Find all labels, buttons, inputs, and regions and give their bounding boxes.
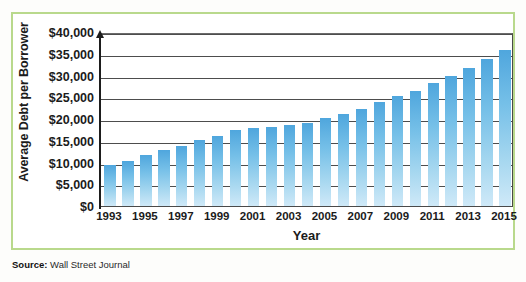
x-tick-label: 2011 (420, 210, 445, 222)
y-tick-label: $10,000 (32, 157, 94, 171)
bar (194, 140, 205, 206)
bar-series (101, 34, 512, 206)
bar (392, 96, 403, 206)
bar (176, 146, 187, 206)
y-tick-label: $25,000 (32, 91, 94, 105)
x-axis-title: Year (100, 228, 513, 243)
y-tick-label: $15,000 (32, 135, 94, 149)
bar (374, 102, 385, 206)
chart-figure: Average Debt per Borrower $0$5,000$10,00… (0, 0, 526, 282)
bar (356, 109, 367, 206)
y-tick-label: $5,000 (32, 178, 94, 192)
bar (410, 91, 421, 206)
bar (428, 83, 439, 206)
x-tick-label: 2009 (383, 210, 409, 222)
bar (266, 127, 277, 206)
y-tick-label: $30,000 (32, 70, 94, 84)
x-tick-label: 1995 (132, 210, 158, 222)
bar (122, 161, 133, 206)
x-tick-label: 2005 (312, 210, 338, 222)
x-tick-label: 2007 (348, 210, 374, 222)
bar (445, 76, 456, 207)
bar (499, 50, 510, 206)
x-tick-label: 2015 (491, 210, 517, 222)
x-tick-label: 1999 (204, 210, 230, 222)
bar (338, 114, 349, 206)
bar (320, 118, 331, 206)
y-tick-label: $35,000 (32, 48, 94, 62)
y-tick-label: $20,000 (32, 113, 94, 127)
y-axis-arrow (99, 37, 101, 209)
x-tick-label: 2001 (240, 210, 266, 222)
bar (212, 136, 223, 206)
x-tick-label: 1993 (96, 210, 122, 222)
bar (481, 59, 492, 206)
x-tick-label: 2003 (276, 210, 302, 222)
x-tick-label: 2013 (455, 210, 481, 222)
bar (230, 130, 241, 206)
plot-area (100, 33, 513, 207)
bar (302, 123, 313, 206)
x-axis-tick-labels: 1993199519971999200120032005200720092011… (100, 210, 513, 228)
bar (140, 155, 151, 206)
bar (463, 68, 474, 206)
source-value: Wall Street Journal (50, 259, 130, 270)
bar (248, 128, 259, 206)
y-axis-tick-labels: $0$5,000$10,000$15,000$20,000$25,000$30,… (26, 0, 94, 282)
y-tick-label: $40,000 (32, 26, 94, 40)
y-tick-label: $0 (32, 200, 94, 214)
bar (104, 165, 115, 206)
source-note: Source: Wall Street Journal (12, 259, 130, 270)
bar (158, 150, 169, 206)
source-label: Source: (12, 259, 47, 270)
bar (284, 125, 295, 206)
x-tick-label: 1997 (168, 210, 194, 222)
